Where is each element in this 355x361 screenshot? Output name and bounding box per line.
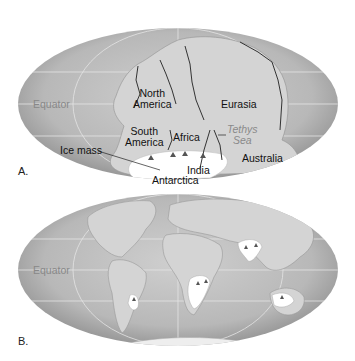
panel-letter-b: B. — [18, 335, 28, 347]
equator-label: Equator — [33, 99, 70, 110]
label-america: America — [133, 98, 172, 110]
label-africa: Africa — [173, 132, 200, 143]
panel-b-modern-map: Equator B. — [0, 185, 355, 361]
label-australia: Australia — [242, 153, 283, 164]
label-north-america: North America — [133, 88, 172, 110]
label-eurasia: Eurasia — [221, 99, 257, 110]
pangaea-globe-map — [0, 0, 355, 185]
label-america-2: America — [125, 136, 164, 148]
label-south-america: South America — [125, 126, 164, 148]
label-ice-mass: Ice mass — [60, 145, 102, 156]
panel-a-pangaea-map: Equator North America Eurasia South Amer… — [0, 0, 355, 185]
label-tethys-sea: Tethys Sea — [227, 124, 258, 146]
label-sea: Sea — [233, 134, 252, 146]
equator-label: Equator — [33, 265, 70, 276]
panel-letter-a: A. — [18, 165, 28, 177]
